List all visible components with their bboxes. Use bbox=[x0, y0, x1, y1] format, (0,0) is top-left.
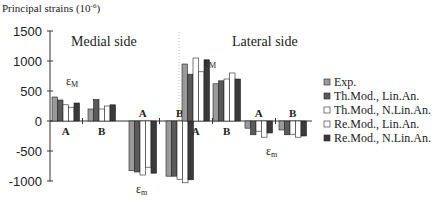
y-tick-label: 0 bbox=[35, 114, 42, 129]
legend-swatch bbox=[324, 107, 330, 113]
bar bbox=[129, 121, 135, 171]
bar bbox=[224, 79, 230, 121]
bar bbox=[188, 74, 194, 121]
bar bbox=[63, 105, 69, 121]
bar bbox=[110, 105, 116, 121]
bar bbox=[267, 121, 273, 133]
legend-label: Exp. bbox=[334, 75, 356, 89]
legend-item: Exp. bbox=[324, 75, 356, 89]
y-tick-label: -1000 bbox=[9, 174, 42, 189]
bar bbox=[213, 84, 219, 121]
bar bbox=[94, 99, 100, 121]
group-label: A bbox=[139, 107, 147, 119]
group-label: B bbox=[98, 125, 106, 137]
bar bbox=[256, 121, 262, 131]
bar bbox=[99, 109, 105, 121]
bar bbox=[183, 121, 189, 183]
bar bbox=[193, 58, 199, 121]
bar bbox=[69, 107, 75, 121]
bar bbox=[105, 106, 111, 121]
legend-item: Re.Mod., N.Lin.An. bbox=[324, 131, 431, 145]
section-label-lateral: Lateral side bbox=[232, 34, 298, 49]
y-axis-label: Principal strains (10-6) bbox=[2, 2, 100, 15]
bar bbox=[166, 121, 172, 176]
legend-swatch bbox=[324, 135, 330, 141]
strain-annotation: εM bbox=[204, 55, 216, 70]
bar bbox=[58, 100, 64, 121]
bar bbox=[285, 121, 291, 135]
legend-swatch bbox=[324, 93, 330, 99]
legend-label: Re.Mod., Lin.An. bbox=[334, 117, 419, 131]
strain-annotation: εm bbox=[266, 144, 278, 159]
bar bbox=[177, 121, 183, 179]
bar bbox=[199, 72, 205, 121]
legend-item: Th.Mod., Lin.An. bbox=[324, 89, 419, 103]
bar bbox=[296, 121, 302, 137]
legend-swatch bbox=[324, 79, 330, 85]
bar bbox=[182, 64, 188, 121]
group-label: A bbox=[62, 125, 70, 137]
section-label-medial: Medial side bbox=[71, 34, 137, 49]
strain-annotation: εM bbox=[66, 74, 78, 89]
bar bbox=[262, 121, 268, 137]
bar bbox=[235, 79, 241, 121]
legend-item: Th.Mod., N.Lin.An. bbox=[324, 103, 431, 117]
legend-item: Re.Mod., Lin.An. bbox=[324, 117, 419, 131]
bar bbox=[151, 121, 157, 173]
y-tick-label: -500 bbox=[16, 144, 42, 159]
bar bbox=[301, 121, 307, 136]
group-label: A bbox=[255, 107, 263, 119]
legend-label: Th.Mod., Lin.An. bbox=[334, 89, 419, 103]
bar bbox=[146, 121, 152, 167]
strain-annotation: εm bbox=[136, 182, 148, 197]
bar bbox=[230, 73, 236, 121]
bar bbox=[245, 121, 251, 128]
legend-label: Th.Mod., N.Lin.An. bbox=[334, 103, 431, 117]
legend-swatch bbox=[324, 121, 330, 127]
group-label: B bbox=[223, 125, 231, 137]
bar bbox=[219, 81, 225, 121]
y-tick-label: 1500 bbox=[13, 24, 42, 39]
bar bbox=[52, 97, 58, 121]
bar bbox=[135, 121, 141, 172]
bar bbox=[251, 121, 257, 135]
principal-strains-chart: Principal strains (10-6)150010005000-500… bbox=[0, 0, 446, 200]
bar bbox=[88, 109, 94, 121]
group-label: B bbox=[289, 107, 297, 119]
bar bbox=[172, 121, 178, 176]
y-tick-label: 1000 bbox=[13, 54, 42, 69]
bar bbox=[290, 121, 296, 134]
bar bbox=[74, 103, 80, 121]
group-label: A bbox=[192, 125, 200, 137]
legend-label: Re.Mod., N.Lin.An. bbox=[334, 131, 431, 145]
y-tick-label: 500 bbox=[20, 84, 42, 99]
bar bbox=[140, 121, 146, 175]
bar bbox=[279, 121, 285, 130]
